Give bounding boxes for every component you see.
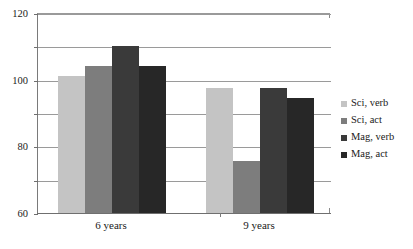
legend-swatch-icon: [341, 118, 347, 124]
plot-area: 120100806040200: [37, 13, 330, 213]
legend-swatch-icon: [341, 101, 347, 107]
gridline: [38, 14, 331, 15]
y-axis-tick: 120: [34, 14, 38, 15]
legend-label: Mag, verb: [351, 132, 394, 143]
bar: [233, 161, 260, 213]
legend-label: Sci, act: [351, 115, 382, 126]
bar-chart: 120100806040200 6 years9 years Sci, verb…: [0, 0, 413, 249]
legend-item: Mag, verb: [341, 130, 413, 145]
legend-item: Sci, act: [341, 113, 413, 128]
legend-swatch-icon: [341, 135, 347, 141]
chart-legend: Sci, verbSci, actMag, verbMag, act: [341, 96, 413, 164]
bar: [287, 98, 314, 213]
legend-label: Sci, verb: [351, 98, 388, 109]
bar: [58, 76, 85, 213]
legend-swatch-icon: [341, 152, 347, 158]
bar: [139, 66, 166, 213]
y-axis-tick: 40: [34, 147, 38, 148]
y-axis-tick-label: 120: [12, 9, 28, 20]
legend-item: Sci, verb: [341, 96, 413, 111]
y-axis-tick: 100: [34, 47, 38, 48]
y-axis-tick: 80: [34, 81, 38, 82]
y-axis-tick-label: 100: [12, 75, 28, 86]
y-axis-tick-label: 60: [18, 209, 29, 220]
gridline: [38, 47, 331, 48]
bar: [85, 66, 112, 213]
x-axis-line: [37, 213, 331, 214]
x-axis-category-label: 6 years: [95, 219, 126, 231]
x-axis-separator-tick: [220, 213, 221, 217]
legend-label: Mag, act: [351, 149, 388, 160]
bar: [260, 88, 287, 213]
y-axis-tick: 20: [34, 181, 38, 182]
y-axis-tick: 0: [34, 214, 38, 215]
y-axis-tick: 60: [34, 114, 38, 115]
y-axis-tick-label: 80: [18, 142, 29, 153]
bar: [206, 88, 233, 213]
x-axis-category-label: 9 years: [243, 219, 274, 231]
legend-item: Mag, act: [341, 147, 413, 162]
bar: [112, 46, 139, 213]
